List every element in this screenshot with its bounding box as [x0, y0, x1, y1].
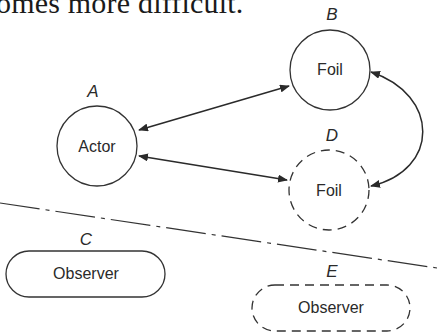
node-label-foil-b: Foil — [317, 61, 343, 79]
node-label-observer-c: Observer — [53, 265, 119, 283]
node-letter-d: D — [326, 126, 338, 146]
node-letter-b: B — [326, 5, 337, 25]
separator-line — [0, 203, 437, 268]
role-diagram — [0, 0, 441, 333]
node-label-observer-e: Observer — [298, 299, 364, 317]
node-letter-c: C — [80, 230, 92, 250]
node-letter-a: A — [87, 82, 98, 102]
node-letter-e: E — [326, 262, 337, 282]
arrow-a-d — [139, 156, 287, 180]
node-label-actor: Actor — [78, 138, 115, 156]
node-label-foil-d: Foil — [316, 182, 342, 200]
arrow-a-b — [139, 86, 289, 130]
arrow-b-d-curved — [371, 72, 423, 186]
